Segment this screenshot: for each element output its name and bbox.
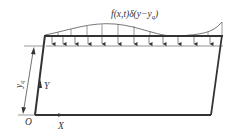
- right-edge: [211, 35, 222, 115]
- load-arrows: [52, 37, 210, 44]
- origin-label: O: [25, 117, 32, 127]
- x-axis-arrow-icon: [58, 113, 64, 116]
- dimension-arrow-bottom-icon: [22, 107, 27, 114]
- dimension-arrow-top-icon: [31, 47, 36, 55]
- plate-load-diagram: f(x,t)δ(y−yq) yq Y O X: [0, 0, 238, 134]
- x-axis-label: X: [57, 121, 65, 131]
- left-edge: [35, 35, 45, 115]
- dimension-label: yq: [14, 80, 25, 89]
- dimension-line: [24, 52, 33, 108]
- load-distribution-curve: [45, 22, 222, 36]
- y-axis-label: Y: [44, 81, 51, 91]
- load-label: f(x,t)δ(y−yq): [111, 9, 158, 20]
